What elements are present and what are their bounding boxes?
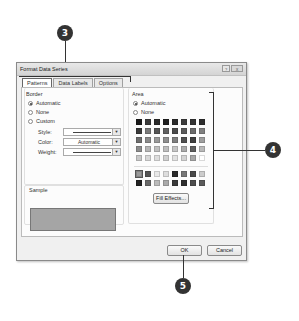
callout-4-line [213, 150, 265, 151]
callout-4-bracket-bottom [209, 208, 214, 209]
cancel-button[interactable]: Cancel [207, 245, 242, 256]
close-button[interactable]: X [231, 65, 243, 72]
callout-3-bracket [19, 76, 131, 77]
border-groupbox [24, 88, 124, 185]
callout-3: 3 [57, 25, 73, 41]
title-bar[interactable]: Format Data Series ? X [17, 63, 246, 76]
callout-3-bracket-end [130, 76, 131, 82]
callout-5: 5 [175, 278, 191, 294]
callout-4: 4 [265, 142, 281, 158]
callout-5-line [183, 255, 184, 278]
area-groupbox [128, 88, 214, 224]
ok-button[interactable]: OK [167, 245, 202, 256]
help-button[interactable]: ? [222, 65, 230, 72]
dialog-title: Format Data Series [20, 66, 68, 72]
sample-preview [30, 208, 116, 231]
